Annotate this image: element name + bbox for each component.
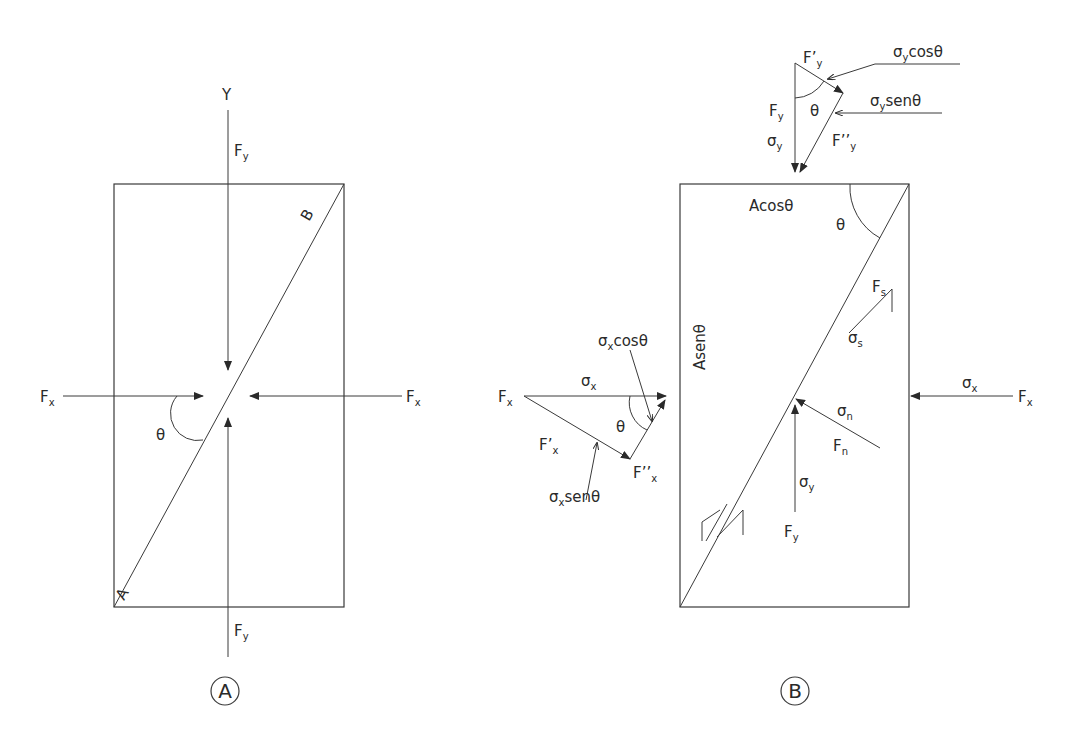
corner-label-a: A [112, 584, 133, 603]
label-f-x-right: Fx [1018, 388, 1033, 408]
label-sigma-y-sen: σysenθ [870, 92, 921, 112]
label-sigma-y-inner: σy [799, 473, 815, 493]
angle-label-b-top: θ [836, 216, 845, 234]
label-f-prime-y: F’y [803, 49, 822, 69]
panel-a: Y Fy Fy Fx Fx θ B A A [40, 86, 421, 705]
label-sigma-s: σs [848, 329, 863, 349]
oblique-plane-b [680, 184, 909, 607]
corner-label-b: B [297, 206, 318, 224]
label-top-face: Acosθ [749, 197, 793, 215]
caption-b: B [788, 679, 802, 703]
label-fy-bottom: Fy [234, 622, 249, 642]
angle-arc-b-top [850, 184, 880, 238]
label-fx-left: Fx [40, 388, 55, 408]
label-f-dprime-x: F’’x [633, 464, 657, 484]
label-f-y-inner: Fy [784, 523, 799, 543]
label-fx-right: Fx [406, 388, 421, 408]
label-sigma-x-sen: σxsenθ [549, 488, 600, 508]
label-sigma-x-triangle: σx [581, 372, 597, 392]
pointer-sigma-x-cos [630, 350, 652, 421]
label-sigma-x-cos: σxcosθ [598, 332, 648, 352]
label-sigma-y-cos: σycosθ [893, 43, 943, 63]
caption-a: A [218, 679, 232, 703]
f-dprime-x-arrow [630, 400, 665, 459]
label-f-y-triangle: Fy [769, 102, 784, 122]
label-f-s: Fs [872, 278, 886, 298]
angle-label-x-triangle: θ [616, 418, 625, 436]
label-f-x-triangle: Fx [498, 388, 513, 408]
angle-label-a: θ [156, 426, 165, 444]
axis-label-y: Y [221, 86, 232, 104]
angle-label-y-triangle: θ [810, 102, 819, 120]
shear-arrow-lower-left-stem [706, 504, 727, 541]
angle-arc-y-triangle [795, 81, 824, 98]
angle-arc-x-triangle [629, 396, 647, 430]
label-fy-top: Fy [234, 142, 249, 162]
angle-arc-a [171, 396, 203, 441]
label-sigma-y-triangle: σy [767, 132, 783, 152]
label-f-dprime-y: F’’y [832, 132, 856, 152]
stress-diagram: Y Fy Fy Fx Fx θ B A A F’y Fy σy θ F’’y σ… [0, 0, 1074, 740]
label-sigma-x-right: σx [962, 374, 978, 394]
label-f-n: Fn [833, 437, 848, 457]
panel-b: F’y Fy σy θ F’’y σycosθ σysenθ Acosθ θ A… [498, 43, 1033, 705]
label-sigma-n: σn [837, 402, 853, 422]
label-f-prime-x: F’x [539, 436, 558, 456]
pointer-sigma-y-cos [828, 64, 960, 79]
label-left-face: Asenθ [691, 324, 709, 370]
